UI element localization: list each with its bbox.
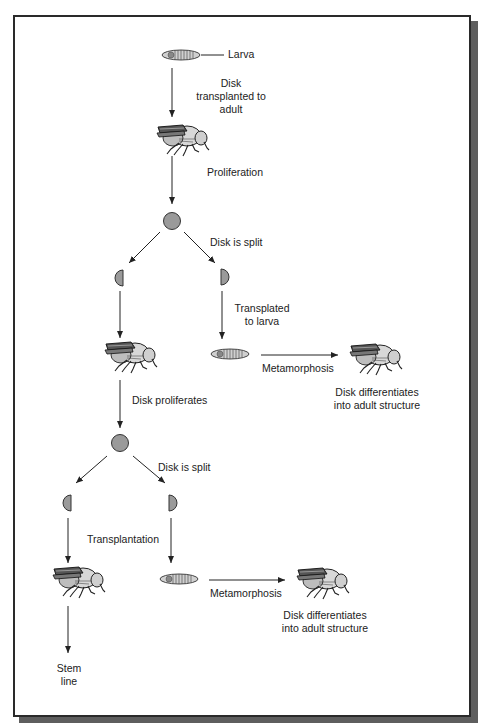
stem-line-label: Stem line [57,662,82,688]
half-disk-icon [115,270,123,286]
disk-split-label-1: Disk is split [210,236,263,249]
transplanted-to-larva-label: Transplated to larva [234,302,289,328]
label-line: adult [196,103,265,116]
label-line: Transplated [234,302,289,315]
metamorphosis-label-1: Metamorphosis [262,362,334,375]
differentiates-label-2: Disk differentiates into adult structure [282,609,368,635]
disk-circle-icon [164,213,181,230]
label-line: into adult structure [334,399,420,412]
label-line: to larva [234,315,289,328]
larva-icon [162,50,200,60]
label-line: Disk differentiates [334,386,420,399]
larva-icon [160,574,198,584]
larva-icon [211,349,249,359]
half-disk-icon [169,495,177,511]
half-disk-icon [63,495,71,511]
label-line: Disk [196,77,265,90]
differentiates-label-1: Disk differentiates into adult structure [334,386,420,412]
half-disk-icon [221,269,229,285]
metamorphosis-label-2: Metamorphosis [210,587,282,600]
proliferation-label: Proliferation [207,166,263,179]
larva-label: Larva [228,48,254,61]
adult-fly-icon [53,567,105,598]
label-line: transplanted to [196,90,265,103]
disk-split-label-2: Disk is split [158,461,211,474]
label-line: line [57,675,82,688]
disk-circle-icon [112,435,129,452]
adult-fly-icon [157,125,209,156]
arrow [129,232,160,263]
label-line: into adult structure [282,622,368,635]
arrow [76,456,107,483]
label-line: Stem [57,662,82,675]
step-label-disk-transplanted: Disk transplanted to adult [196,77,265,116]
transplantation-label: Transplantation [87,533,159,546]
adult-fly-icon [105,342,157,373]
adult-fly-icon [350,344,402,375]
adult-fly-icon [297,568,349,599]
label-line: Disk differentiates [282,609,368,622]
disk-proliferates-label: Disk proliferates [132,394,207,407]
